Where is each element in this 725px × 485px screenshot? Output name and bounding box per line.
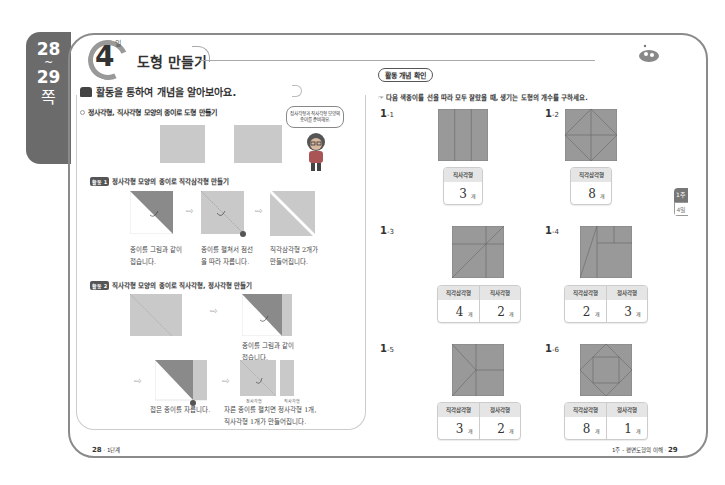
arrow-right-icon: ⇨ — [255, 206, 263, 216]
problem-1-5-figure — [452, 344, 504, 396]
activity2-step2-figure — [242, 294, 292, 336]
section-title: 정사각형, 직사각형 모양의 종이로 도형 만들기 — [80, 107, 217, 117]
answer-value[interactable]: 8 — [583, 422, 591, 436]
activity1-caption-3: 직각삼각형 2개가 만들어집니다. — [270, 244, 325, 268]
left-footer: 28 · 1단계 — [92, 446, 121, 454]
problem-1-6-figure — [580, 344, 632, 396]
rectangle-paper — [234, 125, 282, 163]
answer-value[interactable]: 8 — [588, 187, 596, 201]
answer-value[interactable]: 2 — [497, 422, 505, 436]
activity-heading-text: 활동을 통하여 개념을 알아보아요. — [96, 84, 236, 99]
activity-heading: 활동을 통하여 개념을 알아보아요. — [80, 84, 236, 99]
activity2-step3-figure — [155, 360, 207, 408]
hand-pointer-icon: ☞ — [378, 94, 384, 102]
day-number: 4 — [95, 40, 114, 73]
answer-value[interactable]: 2 — [583, 305, 591, 319]
answer-box-1-4: 직각삼각형정사각형 2개 3개 — [564, 285, 648, 323]
page-range-tab: 28 ~ 29 쪽 — [26, 32, 71, 164]
problem-number-1-1: 1-1 — [380, 108, 394, 119]
activity1-step1-figure — [130, 191, 173, 234]
right-page-number: 29 — [668, 446, 678, 454]
activity2-tag: 활동 2 — [90, 281, 109, 290]
answer-value[interactable]: 4 — [456, 305, 464, 319]
right-footer-label: 1주 - 평면도형의 이해 — [612, 447, 663, 453]
arrow-right-icon: ⇨ — [134, 376, 142, 386]
left-footer-label: 1단계 — [107, 447, 121, 453]
speech-bubble: 정사각형과 직사각형 모양의 종이를 준비해요. — [286, 106, 344, 128]
mascot-illustration-icon — [637, 43, 661, 63]
problem-number-1-4: 1-4 — [545, 225, 559, 236]
problem-number-1-3: 1-3 — [380, 225, 394, 236]
square-paper — [160, 125, 205, 163]
answer-box-1-3: 직각삼각형직사각형 4개 2개 — [437, 285, 521, 323]
question-text: ☞ 다음 색종이를 선을 따라 모두 잘랐을 때, 생기는 도형의 개수를 구하… — [378, 92, 588, 102]
problem-number-1-5: 1-5 — [380, 343, 394, 354]
answer-value[interactable]: 2 — [497, 305, 505, 319]
activity1-title: 정사각형 모양의 종이로 직각삼각형 만들기 — [112, 176, 229, 186]
header-divider — [200, 60, 595, 61]
activity1-tag: 활동 1 — [90, 177, 109, 186]
problem-1-3-figure — [452, 226, 504, 278]
answer-value[interactable]: 1 — [624, 422, 632, 436]
day-label: 일 — [115, 38, 121, 48]
answer-box-1-5: 직각삼각형정사각형 3개 2개 — [437, 402, 521, 440]
answer-header: 직각삼각형 — [571, 168, 611, 182]
activity2-caption-2: 접은 종이를 자릅니다. — [150, 404, 220, 416]
activity2-step1-figure — [130, 294, 182, 336]
concept-check-badge: 활동 개념 확인 — [378, 68, 433, 82]
problem-number-1-6: 1-6 — [545, 343, 559, 354]
week-day-tab: 1주 4일 — [674, 188, 688, 216]
answer-header: 직사각형 — [444, 168, 482, 182]
answer-value[interactable]: 3 — [456, 422, 464, 436]
week-label: 1주 — [674, 188, 688, 202]
arrow-right-icon: ⇨ — [222, 376, 230, 386]
activity1-label: 활동 1 정사각형 모양의 종이로 직각삼각형 만들기 — [90, 176, 229, 186]
answer-box-1-6: 직각삼각형정사각형 8개 1개 — [564, 402, 648, 440]
problem-1-1-figure — [438, 109, 488, 161]
arrow-right-icon: ⇨ — [186, 206, 194, 216]
activity2-label: 활동 2 직사각형 모양의 종이로 직사각형, 정사각형 만들기 — [90, 280, 252, 290]
bullet-icon — [80, 110, 85, 115]
page-suffix: 쪽 — [26, 88, 71, 108]
day-label: 4일 — [674, 202, 688, 216]
activity1-caption-2: 종이를 펼쳐서 점선을 따라 자릅니다. — [201, 244, 256, 268]
problem-1-2-figure — [565, 109, 617, 161]
answer-box-1-2: 직각삼각형 8개 — [570, 167, 612, 205]
answer-value[interactable]: 3 — [459, 187, 467, 201]
arrow-right-icon: ⇨ — [210, 306, 218, 316]
problem-1-4-figure — [580, 226, 632, 278]
activity2-step4-figure — [240, 360, 300, 400]
problem-number-1-2: 1-2 — [545, 108, 559, 119]
activity-icon — [80, 87, 92, 97]
activity1-step3-figure — [270, 191, 315, 236]
activity2-caption-3: 자른 종이를 펼치면 정사각형 1개, 직사각형 1개가 만들어집니다. — [224, 404, 324, 428]
activity1-caption-1: 종이를 그림과 같이 접습니다. — [130, 244, 185, 268]
activity1-step2-figure — [201, 191, 249, 239]
character-illustration-icon — [302, 132, 330, 172]
left-page-number: 28 — [92, 446, 102, 454]
page-end: 29 — [26, 68, 71, 86]
right-footer: 1주 - 평면도형의 이해 · 29 — [612, 446, 678, 454]
activity2-title: 직사각형 모양의 종이로 직사각형, 정사각형 만들기 — [112, 280, 252, 290]
answer-value[interactable]: 3 — [624, 305, 632, 319]
answer-box-1-1: 직사각형 3개 — [443, 167, 483, 205]
